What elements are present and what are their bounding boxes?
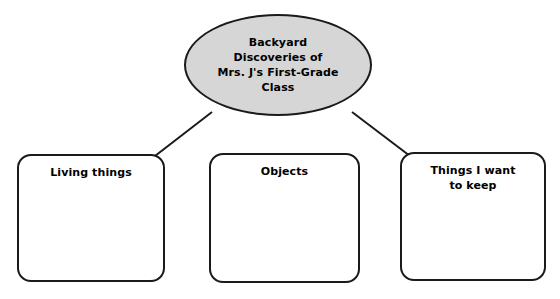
branch-keep-line-2: to keep <box>412 178 534 193</box>
center-node-line-3: Mrs. J's First-Grade <box>217 65 338 80</box>
center-node-line-1: Backyard <box>217 35 338 50</box>
diagram-canvas: Backyard Discoveries of Mrs. J's First-G… <box>0 0 560 299</box>
connector-center-to-living-things <box>155 112 212 156</box>
center-node-label: Backyard Discoveries of Mrs. J's First-G… <box>203 35 352 95</box>
branch-node-things-i-want-to-keep-label: Things I want to keep <box>402 154 544 193</box>
branch-node-living-things[interactable]: Living things <box>17 154 165 282</box>
center-node-line-2: Discoveries of <box>217 50 338 65</box>
center-node-line-4: Class <box>217 80 338 95</box>
branch-node-objects[interactable]: Objects <box>209 153 360 283</box>
branch-node-objects-label: Objects <box>211 155 358 179</box>
branch-objects-line-1: Objects <box>221 164 348 179</box>
branch-keep-line-1: Things I want <box>412 163 534 178</box>
center-node-backyard-discoveries[interactable]: Backyard Discoveries of Mrs. J's First-G… <box>184 14 372 116</box>
branch-node-things-i-want-to-keep[interactable]: Things I want to keep <box>400 152 546 281</box>
branch-node-living-things-label: Living things <box>19 156 163 180</box>
branch-living-things-line-1: Living things <box>29 165 153 180</box>
connector-center-to-things-i-want-to-keep <box>352 112 410 156</box>
